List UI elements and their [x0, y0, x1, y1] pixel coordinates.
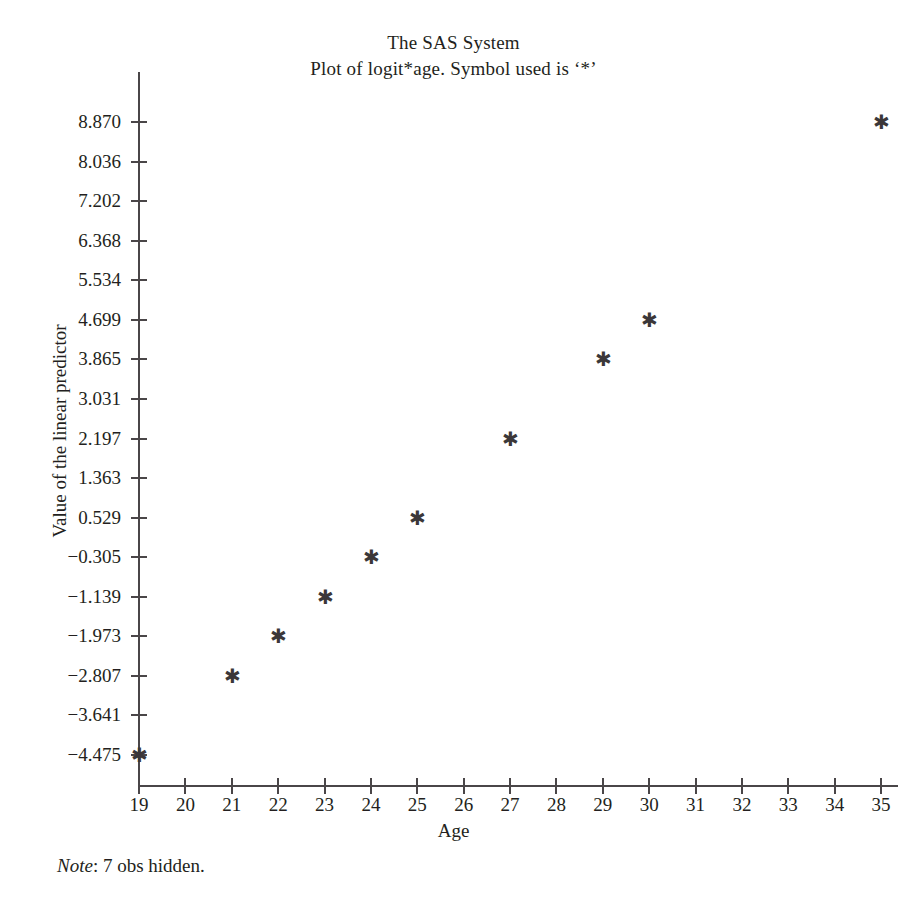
x-axis-tick-label: 33 — [768, 795, 808, 814]
y-axis-tick — [131, 121, 147, 123]
data-point-marker: ✱ — [502, 431, 518, 447]
y-axis-tick — [131, 517, 147, 519]
x-axis-tick-label: 22 — [258, 795, 298, 814]
data-point-marker: ✱ — [641, 312, 657, 328]
data-point-marker: ✱ — [270, 628, 286, 644]
data-point-marker: ✱ — [409, 510, 425, 526]
x-axis-tick-label: 25 — [397, 795, 437, 814]
footnote-text: : 7 obs hidden. — [93, 855, 205, 876]
x-axis-tick-label: 20 — [165, 795, 205, 814]
x-axis-tick — [231, 778, 233, 794]
x-axis-tick-label: 30 — [629, 795, 669, 814]
x-axis-tick-label: 34 — [815, 795, 855, 814]
x-axis-tick-label: 26 — [444, 795, 484, 814]
y-axis-line — [138, 72, 140, 787]
x-axis-tick — [370, 778, 372, 794]
x-axis-tick — [787, 778, 789, 794]
x-axis-tick — [324, 778, 326, 794]
x-axis-tick-label: 31 — [676, 795, 716, 814]
data-point-marker: ✱ — [224, 668, 240, 684]
x-axis-tick-label: 29 — [583, 795, 623, 814]
y-axis-tick-label: 7.202 — [46, 191, 121, 210]
x-axis-tick-label: 28 — [536, 795, 576, 814]
y-axis-tick-label: −4.475 — [46, 745, 121, 764]
footnote-label: Note — [57, 855, 93, 876]
y-axis-tick-label: −3.641 — [46, 705, 121, 724]
x-axis-tick — [880, 778, 882, 794]
data-point-marker: ✱ — [595, 351, 611, 367]
data-point-marker: ✱ — [131, 747, 147, 763]
x-axis-tick-label: 19 — [119, 795, 159, 814]
x-axis-tick-label: 23 — [305, 795, 345, 814]
y-axis-tick — [131, 279, 147, 281]
x-axis-tick — [138, 778, 140, 794]
x-axis-line — [138, 785, 898, 787]
data-point-marker: ✱ — [317, 589, 333, 605]
scatter-plot-area: 8.8708.0367.2026.3685.5344.6993.8653.031… — [0, 0, 907, 905]
y-axis-tick — [131, 596, 147, 598]
y-axis-tick — [131, 675, 147, 677]
x-axis-tick-label: 32 — [722, 795, 762, 814]
y-axis-tick — [131, 438, 147, 440]
x-axis-tick — [277, 778, 279, 794]
x-axis-tick — [509, 778, 511, 794]
x-axis-tick — [416, 778, 418, 794]
y-axis-tick — [131, 714, 147, 716]
y-axis-tick — [131, 240, 147, 242]
y-axis-tick — [131, 200, 147, 202]
y-axis-tick-label: 6.368 — [46, 231, 121, 250]
x-axis-title: Age — [0, 820, 907, 842]
x-axis-tick-label: 21 — [212, 795, 252, 814]
x-axis-tick-label: 27 — [490, 795, 530, 814]
x-axis-tick — [184, 778, 186, 794]
y-axis-tick — [131, 556, 147, 558]
y-axis-tick-label: 8.870 — [46, 112, 121, 131]
y-axis-tick-label: 8.036 — [46, 152, 121, 171]
y-axis-tick — [131, 161, 147, 163]
x-axis-tick — [741, 778, 743, 794]
y-axis-tick-label: −2.807 — [46, 666, 121, 685]
y-axis-tick — [131, 358, 147, 360]
data-point-marker: ✱ — [873, 114, 889, 130]
x-axis-tick — [602, 778, 604, 794]
y-axis-tick — [131, 635, 147, 637]
x-axis-tick-label: 35 — [861, 795, 901, 814]
data-point-marker: ✱ — [363, 549, 379, 565]
x-axis-tick — [834, 778, 836, 794]
x-axis-tick — [648, 778, 650, 794]
y-axis-tick-label: −1.973 — [46, 626, 121, 645]
y-axis-title: Value of the linear predictor — [49, 271, 71, 591]
y-axis-tick — [131, 477, 147, 479]
x-axis-tick — [695, 778, 697, 794]
x-axis-tick — [463, 778, 465, 794]
x-axis-tick-label: 24 — [351, 795, 391, 814]
y-axis-tick — [131, 319, 147, 321]
sas-plot-page: The SAS System Plot of logit*age. Symbol… — [0, 0, 907, 905]
y-axis-tick — [131, 398, 147, 400]
footnote: Note: 7 obs hidden. — [57, 855, 205, 877]
x-axis-tick — [555, 778, 557, 794]
